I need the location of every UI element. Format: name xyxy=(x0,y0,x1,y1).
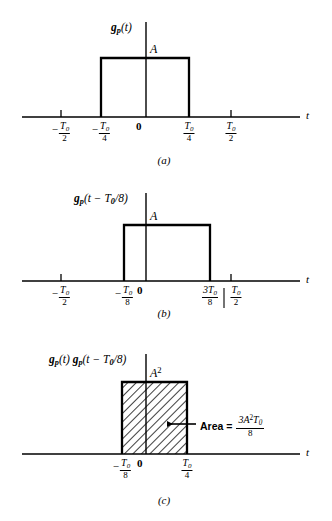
signal-label-c-rest-b: /8) xyxy=(114,353,127,365)
ticklabel-a-5-num: T0 xyxy=(225,121,236,133)
figure-root: gp(t) A t 0 − T0 2 − T0 4 T0 4 xyxy=(0,0,332,521)
panel-a-graphic xyxy=(0,0,332,175)
ticklabel-a-4-num: T0 xyxy=(183,121,194,133)
amplitude-label-a: A xyxy=(150,43,157,55)
ticklabel-b-4-den: 8 xyxy=(202,297,218,307)
origin-label-c: 0 xyxy=(137,458,143,469)
ticklabel-a-4: T0 4 xyxy=(183,121,194,144)
origin-label-a: 0 xyxy=(136,121,142,132)
ticklabel-b-2-frac: T0 8 xyxy=(122,285,133,308)
origin-label-b: 0 xyxy=(137,285,143,296)
panel-b: gp(t − T0/8) A t 0 − T0 2 − T0 8 3T0 8 xyxy=(0,168,332,346)
axis-variable-label-a: t xyxy=(306,110,309,121)
ticklabel-c-3-den: 4 xyxy=(181,470,192,480)
panel-caption-c: (c) xyxy=(144,495,184,506)
area-annotation-denominator: 8 xyxy=(236,428,264,439)
signal-label-c-rest-a: (t − T xyxy=(83,353,110,365)
signal-label-b: gp(t − T0/8) xyxy=(74,193,128,206)
ticklabel-c-3-num: T0 xyxy=(181,458,192,470)
ticklabel-b-4-frac: 3T0 8 xyxy=(202,285,218,308)
signal-label-c-mid: (t) xyxy=(59,353,70,365)
ticklabel-a-5-den: 2 xyxy=(225,133,236,143)
ticklabel-c-1-den: 8 xyxy=(120,470,131,480)
ticklabel-a-4-frac: T0 4 xyxy=(183,121,194,144)
panel-c: gp(t) gp(t − T0/8) A2 t 0 − T0 8 T0 4 Ar… xyxy=(0,340,332,521)
axis-variable-label-b: t xyxy=(306,274,309,285)
ticklabel-a-2-den: 4 xyxy=(99,133,110,143)
panel-caption-b: (b) xyxy=(144,308,184,319)
ticklabel-a-4-den: 4 xyxy=(183,133,194,143)
ticklabel-b-4: 3T0 8 xyxy=(202,285,218,308)
panel-a: gp(t) A t 0 − T0 2 − T0 4 T0 4 xyxy=(0,0,332,175)
ticklabel-a-1-minus: − xyxy=(52,123,58,135)
product-rect-hatch-c xyxy=(122,382,187,454)
amplitude-label-c: A2 xyxy=(150,366,162,379)
ticklabel-b-2: − T0 8 xyxy=(115,285,133,308)
signal-label-b-rest-a: (t − T xyxy=(84,192,111,204)
amplitude-label-c-exp: 2 xyxy=(157,365,161,375)
ticklabel-b-5-den: 2 xyxy=(230,297,241,307)
signal-label-b-rest-b: /8) xyxy=(115,192,128,204)
panel-b-graphic xyxy=(0,168,332,346)
ticklabel-b-5-num: T0 xyxy=(230,285,241,297)
ticklabel-a-1: − T0 2 xyxy=(52,121,70,144)
ticklabel-b-2-den: 8 xyxy=(122,297,133,307)
ticklabel-b-1: − T0 2 xyxy=(52,285,70,308)
ticklabel-c-1-frac: T0 8 xyxy=(120,458,131,481)
ticklabel-c-1-minus: − xyxy=(113,460,119,472)
ticklabel-c-3: T0 4 xyxy=(181,458,192,481)
ticklabel-b-4-num: 3T0 xyxy=(202,285,218,297)
amplitude-label-b: A xyxy=(150,210,157,222)
ticklabel-a-2-minus: − xyxy=(92,123,98,135)
ticklabel-a-1-num: T0 xyxy=(59,121,70,133)
signal-label-c: gp(t) gp(t − T0/8) xyxy=(49,354,126,367)
ticklabel-a-5-frac: T0 2 xyxy=(225,121,236,144)
area-annotation-fraction: 3A2T0 8 xyxy=(236,414,264,439)
ticklabel-a-1-den: 2 xyxy=(59,133,70,143)
area-annotation-numerator: 3A2T0 xyxy=(236,414,264,428)
ticklabel-b-5-frac: T0 2 xyxy=(230,285,241,308)
ticklabel-b-5: T0 2 xyxy=(230,285,241,308)
ticklabel-b-1-minus: − xyxy=(52,287,58,299)
ticklabel-c-1-num: T0 xyxy=(120,458,131,470)
ticklabel-b-1-num: T0 xyxy=(59,285,70,297)
ticklabel-a-2-num: T0 xyxy=(99,121,110,133)
area-annotation-text: Area = xyxy=(200,420,232,432)
ticklabel-a-5: T0 2 xyxy=(225,121,236,144)
pulse-rect-a xyxy=(101,58,189,117)
ticklabel-a-2-frac: T0 4 xyxy=(99,121,110,144)
area-annotation-c: Area = 3A2T0 8 xyxy=(200,414,264,439)
ticklabel-b-1-frac: T0 2 xyxy=(59,285,70,308)
axis-variable-label-c: t xyxy=(306,447,309,458)
ticklabel-a-2: − T0 4 xyxy=(92,121,110,144)
ticklabel-b-1-den: 2 xyxy=(59,297,70,307)
ticklabel-b-2-num: T0 xyxy=(122,285,133,297)
ticklabel-c-3-frac: T0 4 xyxy=(181,458,192,481)
pulse-rect-b xyxy=(124,225,210,281)
signal-label-a: gp(t) xyxy=(111,22,132,35)
panel-caption-a: (a) xyxy=(144,155,184,166)
ticklabel-a-1-frac: T0 2 xyxy=(59,121,70,144)
ticklabel-b-2-minus: − xyxy=(115,287,121,299)
ticklabel-c-1: − T0 8 xyxy=(113,458,131,481)
signal-label-a-rest: (t) xyxy=(121,21,132,33)
